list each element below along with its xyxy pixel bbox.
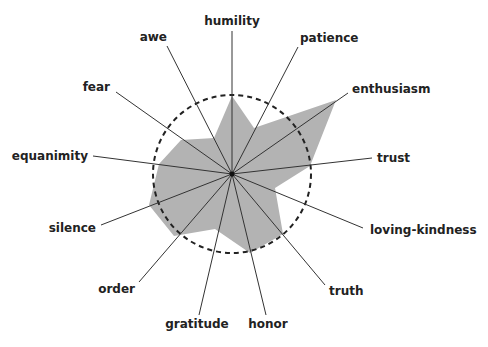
- axis-label-silence: silence: [49, 221, 96, 235]
- radar-chart: humilitypatienceenthusiasmtrustloving-ki…: [0, 0, 488, 347]
- axis-label-gratitude: gratitude: [165, 317, 228, 331]
- radar-area: [149, 96, 336, 253]
- axis-label-order: order: [98, 282, 135, 296]
- axis-label-fear: fear: [83, 80, 110, 94]
- axis-label-patience: patience: [300, 31, 358, 45]
- axis-label-truth: truth: [329, 284, 363, 298]
- axis-label-honor: honor: [248, 317, 288, 331]
- axis-label-enthusiasm: enthusiasm: [352, 82, 431, 96]
- axis-label-awe: awe: [140, 30, 167, 44]
- axis-label-loving-kindness: loving-kindness: [370, 223, 477, 237]
- axis-label-trust: trust: [377, 151, 410, 165]
- axis-label-humility: humility: [204, 14, 260, 28]
- axis-label-equanimity: equanimity: [12, 149, 88, 163]
- center-point: [230, 172, 235, 177]
